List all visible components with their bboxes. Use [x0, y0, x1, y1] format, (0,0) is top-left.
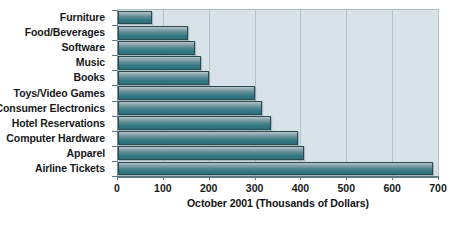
x-axis-tick — [438, 176, 439, 180]
category-label: Consumer Electronics — [0, 102, 105, 115]
category-tick — [112, 161, 117, 162]
bar-row — [118, 162, 439, 176]
bar — [118, 41, 195, 55]
bar-row — [118, 86, 439, 100]
bar — [118, 71, 209, 85]
x-axis-tick-label: 0 — [97, 182, 137, 194]
x-axis-tick-label: 600 — [372, 182, 412, 194]
category-label: Music — [76, 56, 105, 69]
bar-chart: FurnitureFood/BeveragesSoftwareMusicBook… — [0, 0, 459, 229]
x-axis-tick — [209, 176, 210, 180]
x-axis-tick-label: 400 — [280, 182, 320, 194]
x-axis-title: October 2001 (Thousands of Dollars) — [117, 197, 439, 209]
x-axis-tick — [117, 176, 118, 180]
category-label: Software — [61, 41, 105, 54]
category-label: Food/Beverages — [25, 26, 105, 39]
value-axis-line — [117, 176, 439, 178]
bar — [118, 26, 188, 40]
bar — [118, 162, 433, 176]
x-axis-tick-label: 300 — [235, 182, 275, 194]
category-tick — [112, 131, 117, 132]
x-axis-tick — [392, 176, 393, 180]
x-axis-tick — [300, 176, 301, 180]
bar-row — [118, 56, 439, 70]
x-axis-tick-label: 200 — [189, 182, 229, 194]
category-tick — [112, 116, 117, 117]
x-axis-tick-label: 100 — [143, 182, 183, 194]
category-label: Books — [73, 71, 105, 84]
bar-row — [118, 131, 439, 145]
x-axis-tick — [163, 176, 164, 180]
category-label: Computer Hardware — [6, 132, 105, 145]
category-tick — [112, 101, 117, 102]
category-label: Hotel Reservations — [12, 117, 105, 130]
category-tick — [112, 146, 117, 147]
category-label: Airline Tickets — [35, 162, 105, 175]
category-tick — [112, 40, 117, 41]
bar — [118, 101, 262, 115]
category-tick — [112, 25, 117, 26]
bar-row — [118, 146, 439, 160]
bar — [118, 131, 298, 145]
category-label: Apparel — [67, 147, 105, 160]
category-tick — [112, 85, 117, 86]
bar — [118, 146, 304, 160]
category-tick — [112, 55, 117, 56]
bar-row — [118, 71, 439, 85]
x-axis-tick — [346, 176, 347, 180]
x-axis-tick — [255, 176, 256, 180]
bar-row — [118, 101, 439, 115]
category-tick — [112, 10, 117, 11]
category-axis: FurnitureFood/BeveragesSoftwareMusicBook… — [0, 10, 110, 176]
bar-row — [118, 11, 439, 25]
plot-area — [117, 10, 439, 176]
bar — [118, 86, 255, 100]
bar — [118, 116, 271, 130]
bar-row — [118, 26, 439, 40]
x-axis-tick-label: 500 — [326, 182, 366, 194]
bar-row — [118, 41, 439, 55]
bar — [118, 56, 201, 70]
category-label: Furniture — [60, 11, 105, 24]
x-axis-tick-label: 700 — [418, 182, 458, 194]
bar — [118, 11, 152, 25]
category-tick — [112, 70, 117, 71]
category-label: Toys/Video Games — [14, 87, 105, 100]
bar-row — [118, 116, 439, 130]
